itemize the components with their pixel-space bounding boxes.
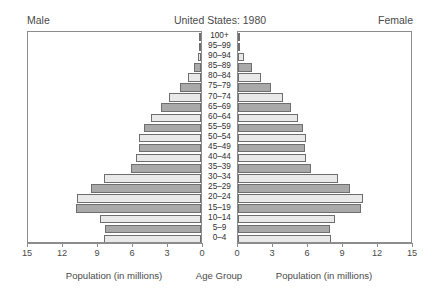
bar-female-5_9 xyxy=(238,225,330,233)
axis-tick xyxy=(132,243,133,247)
age-group-label: 0–4 xyxy=(202,234,237,242)
bar-female-60_64 xyxy=(238,114,298,122)
bar-female-0_4 xyxy=(238,235,331,243)
age-group-label: 60–64 xyxy=(202,113,237,121)
bar-male-50_54 xyxy=(139,134,201,142)
age-group-label: 100+ xyxy=(202,32,237,40)
axis-tick-label: 0 xyxy=(225,249,249,258)
axis-tick-label: 15 xyxy=(15,249,39,258)
bar-female-30_34 xyxy=(238,174,338,182)
axis-tick xyxy=(97,243,98,247)
bar-female-35_39 xyxy=(238,164,311,172)
bar-female-10_14 xyxy=(238,215,335,223)
axis-tick-label: 12 xyxy=(365,249,389,258)
bar-male-70_74 xyxy=(169,93,201,101)
bar-female-15_19 xyxy=(238,204,361,212)
axis-tick-label: 9 xyxy=(85,249,109,258)
age-group-label: 15–19 xyxy=(202,204,237,212)
axis-tick-label: 6 xyxy=(295,249,319,258)
axis-tick-label: 15 xyxy=(400,249,424,258)
bar-male-40_44 xyxy=(136,154,201,162)
age-group-label: 45–49 xyxy=(202,143,237,151)
axis-tick-label: 9 xyxy=(330,249,354,258)
bar-male-30_34 xyxy=(104,174,201,182)
bar-male-65_69 xyxy=(161,103,201,111)
bar-male-75_79 xyxy=(180,83,201,91)
male-plot-area xyxy=(27,31,202,243)
bar-male-90_94 xyxy=(198,53,201,61)
female-side-label: Female xyxy=(378,14,413,28)
axis-tick xyxy=(272,243,273,247)
bar-male-100+ xyxy=(199,33,201,41)
axis-tick-label: 0 xyxy=(190,249,214,258)
bar-female-75_79 xyxy=(238,83,271,91)
age-group-label: 25–29 xyxy=(202,183,237,191)
population-pyramid-chart: Male United States: 1980 Female 100+95–9… xyxy=(0,0,440,295)
bar-female-90_94 xyxy=(238,53,244,61)
age-group-label: 70–74 xyxy=(202,93,237,101)
axis-tick-label: 6 xyxy=(120,249,144,258)
male-axis-line xyxy=(27,243,202,244)
age-group-label: 80–84 xyxy=(202,72,237,80)
chart-title: United States: 1980 xyxy=(0,14,440,28)
age-group-label: 5–9 xyxy=(202,224,237,232)
bar-male-45_49 xyxy=(139,144,201,152)
axis-tick xyxy=(62,243,63,247)
bar-male-60_64 xyxy=(151,114,201,122)
axis-tick xyxy=(342,243,343,247)
bar-male-5_9 xyxy=(105,225,201,233)
bar-female-50_54 xyxy=(238,134,306,142)
axis-tick xyxy=(202,243,203,247)
bar-female-95_99 xyxy=(238,43,240,51)
axis-tick xyxy=(27,243,28,247)
bar-female-25_29 xyxy=(238,184,350,192)
bar-female-45_49 xyxy=(238,144,305,152)
bar-male-80_84 xyxy=(188,73,201,81)
bar-female-65_69 xyxy=(238,103,291,111)
bar-female-85_89 xyxy=(238,63,252,71)
age-group-label: 90–94 xyxy=(202,52,237,60)
bar-male-15_19 xyxy=(76,204,201,212)
age-group-axis: 100+95–9990–9485–8980–8475–7970–7465–696… xyxy=(202,31,237,243)
bar-male-95_99 xyxy=(199,43,201,51)
age-group-label: 10–14 xyxy=(202,214,237,222)
bar-female-70_74 xyxy=(238,93,283,101)
bar-female-20_24 xyxy=(238,194,363,202)
age-group-label: 50–54 xyxy=(202,133,237,141)
bar-male-20_24 xyxy=(77,194,201,202)
axis-tick xyxy=(167,243,168,247)
age-group-label: 20–24 xyxy=(202,193,237,201)
axis-tick-label: 3 xyxy=(260,249,284,258)
bar-male-0_4 xyxy=(104,235,201,243)
axis-tick xyxy=(412,243,413,247)
age-group-label: 85–89 xyxy=(202,62,237,70)
bar-male-55_59 xyxy=(144,124,201,132)
axis-tick xyxy=(237,243,238,247)
bar-male-10_14 xyxy=(100,215,201,223)
age-group-label: 95–99 xyxy=(202,42,237,50)
bar-male-25_29 xyxy=(91,184,201,192)
bar-female-80_84 xyxy=(238,73,261,81)
axis-tick xyxy=(307,243,308,247)
axis-tick-label: 3 xyxy=(155,249,179,258)
female-plot-area xyxy=(237,31,412,243)
age-group-label: 35–39 xyxy=(202,163,237,171)
bar-female-100+ xyxy=(238,33,240,41)
age-group-label: 65–69 xyxy=(202,103,237,111)
right-axis-caption: Population (in millions) xyxy=(244,270,404,281)
female-axis-line xyxy=(237,243,412,244)
age-group-label: 55–59 xyxy=(202,123,237,131)
bar-female-55_59 xyxy=(238,124,303,132)
age-group-label: 30–34 xyxy=(202,173,237,181)
age-group-label: 75–79 xyxy=(202,82,237,90)
axis-tick xyxy=(377,243,378,247)
bar-male-85_89 xyxy=(194,63,201,71)
bar-male-35_39 xyxy=(131,164,201,172)
age-group-label: 40–44 xyxy=(202,153,237,161)
axis-tick-label: 12 xyxy=(50,249,74,258)
bar-female-40_44 xyxy=(238,154,306,162)
